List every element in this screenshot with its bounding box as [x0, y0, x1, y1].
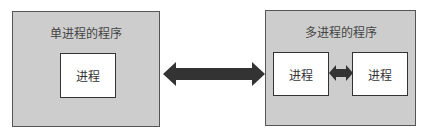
ipc-arrow-icon — [329, 65, 353, 81]
single-process-title: 单进程的程序 — [13, 24, 159, 41]
process-label: 进程 — [76, 67, 100, 84]
process-box: 进程 — [352, 52, 408, 96]
process-label: 进程 — [368, 66, 392, 83]
process-label: 进程 — [289, 66, 313, 83]
single-process-program-panel: 单进程的程序 进程 — [12, 11, 160, 127]
process-box: 进程 — [60, 53, 116, 98]
bidirectional-arrow-icon — [162, 61, 266, 87]
process-box: 进程 — [273, 52, 329, 96]
multi-process-title: 多进程的程序 — [266, 23, 415, 40]
